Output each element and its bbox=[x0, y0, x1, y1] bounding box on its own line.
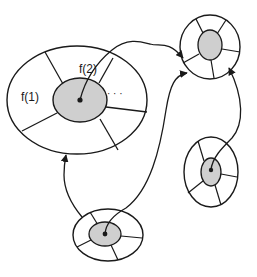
top-right-node-inner-core bbox=[198, 30, 222, 60]
edge-bottom-to-large bbox=[64, 155, 82, 217]
large-node: f(1) f(2) · · · bbox=[7, 46, 147, 154]
bottom-node bbox=[73, 209, 143, 261]
pointer-diagram: f(1) f(2) · · · bbox=[0, 0, 257, 277]
label-f1: f(1) bbox=[21, 90, 39, 104]
top-right-node bbox=[180, 15, 240, 79]
label-ellipsis: · · · bbox=[107, 88, 123, 99]
right-middle-node bbox=[184, 137, 238, 207]
